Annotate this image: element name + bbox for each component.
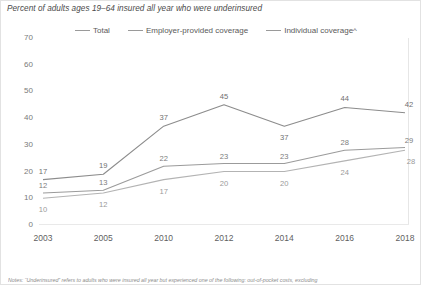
- data-label-2-1: 12: [99, 201, 107, 209]
- data-label-1-1: 13: [99, 179, 107, 187]
- data-label-0-2: 37: [159, 114, 167, 122]
- y-axis-tick-20: 20: [5, 168, 33, 176]
- x-axis-tick-2005: 2005: [83, 233, 123, 243]
- y-axis-tick-30: 30: [5, 141, 33, 149]
- legend-line-icon-individual: [266, 30, 281, 31]
- data-label-2-2: 17: [159, 188, 167, 196]
- data-label-2-6: 28: [407, 158, 415, 166]
- legend-item-individual-coverage[interactable]: Individual coverage^: [266, 26, 357, 35]
- x-axis-tick-2012: 2012: [204, 233, 244, 243]
- chart-title: Percent of adults ages 19–64 insured all…: [7, 4, 262, 13]
- x-axis-tick-2003: 2003: [23, 233, 63, 243]
- chart-note: Notes: “Underinsured” refers to adults w…: [8, 277, 416, 283]
- data-label-0-6: 42: [405, 101, 413, 109]
- legend-label-total: Total: [93, 26, 110, 35]
- data-label-1-4: 23: [280, 153, 288, 161]
- legend-label-employer: Employer-provided coverage: [146, 26, 248, 35]
- y-axis-tick-70: 70: [5, 34, 33, 42]
- x-axis-tick-2010: 2010: [144, 233, 184, 243]
- series-line-0: [43, 105, 405, 180]
- legend-item-total[interactable]: Total: [75, 26, 110, 35]
- x-axis-tick-2014: 2014: [264, 233, 304, 243]
- x-axis-tick-2018: 2018: [385, 233, 422, 243]
- data-label-0-5: 44: [340, 95, 348, 103]
- legend-line-icon-employer: [128, 30, 143, 31]
- data-label-0-4: 37: [280, 134, 288, 142]
- data-label-1-6: 29: [405, 137, 413, 145]
- y-axis-tick-40: 40: [5, 114, 33, 122]
- legend-line-icon-total: [75, 30, 90, 31]
- data-label-1-3: 23: [220, 153, 228, 161]
- data-label-1-5: 28: [340, 139, 348, 147]
- y-axis-tick-50: 50: [5, 87, 33, 95]
- y-axis-tick-10: 10: [5, 194, 33, 202]
- plot-area: 1719374537444212132223232829101217202024…: [39, 38, 409, 225]
- y-axis-tick-0: 0: [5, 221, 33, 229]
- data-label-2-4: 20: [280, 180, 288, 188]
- y-axis-tick-60: 60: [5, 61, 33, 69]
- x-axis-tick-2016: 2016: [325, 233, 365, 243]
- chart-legend: Total Employer-provided coverage Individ…: [75, 26, 357, 35]
- series-lines: [39, 38, 409, 225]
- data-label-1-0: 12: [39, 182, 47, 190]
- data-label-0-3: 45: [220, 93, 228, 101]
- data-label-2-3: 20: [220, 180, 228, 188]
- data-label-0-0: 17: [39, 168, 47, 176]
- data-label-2-0: 10: [39, 206, 47, 214]
- data-label-0-1: 19: [99, 162, 107, 170]
- legend-label-individual: Individual coverage^: [284, 26, 357, 35]
- data-label-2-5: 24: [340, 169, 348, 177]
- data-label-1-2: 22: [159, 155, 167, 163]
- legend-item-employer-provided-coverage[interactable]: Employer-provided coverage: [128, 26, 248, 35]
- chart-frame: Percent of adults ages 19–64 insured all…: [0, 0, 421, 285]
